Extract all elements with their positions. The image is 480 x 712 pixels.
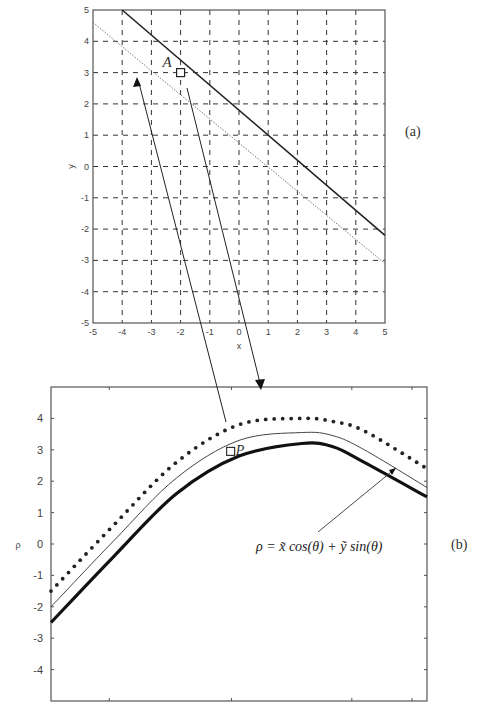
curve-dot [67, 571, 71, 575]
curve-dot [137, 497, 141, 501]
y-tick-label: 4 [37, 412, 43, 424]
curve-dot [180, 456, 184, 460]
curve-dot [155, 478, 159, 482]
y-tick-label: 1 [84, 130, 89, 140]
arrow-b-to-a [139, 83, 226, 422]
curve-dot [114, 521, 118, 525]
y-tick-label: 0 [37, 538, 43, 550]
x-tick-label: 3 [324, 327, 329, 337]
y-tick-label: 5 [84, 5, 89, 15]
curve-dot [255, 419, 259, 423]
line-dotted [93, 23, 385, 264]
y-tick-label: 2 [37, 475, 43, 487]
curve-dot [247, 420, 251, 424]
curve-dot [125, 509, 129, 513]
point-a-label: A [162, 54, 173, 70]
point-a-marker [177, 69, 185, 77]
curve-dot [161, 472, 165, 476]
y-tick-label: 0 [84, 162, 89, 172]
x-tick-label: -2 [177, 327, 185, 337]
curve-dot [119, 515, 123, 519]
curve-dot [187, 451, 191, 455]
curve-dot [386, 442, 390, 446]
curve-dot [131, 503, 135, 507]
curve-dot [55, 583, 59, 587]
curve-dot [315, 417, 319, 421]
curve-dot [289, 417, 293, 421]
y-tick-label: -1 [33, 569, 43, 581]
figure-canvas: -5-4-3-2-1012345543210-1-2-3-4-5xyA43210… [0, 0, 480, 712]
curve-dot [332, 420, 336, 424]
x-tick-label: 0 [236, 327, 241, 337]
y-tick-label: -1 [81, 193, 89, 203]
x-tick-label: 5 [382, 327, 387, 337]
y-tick-label: -2 [33, 601, 43, 613]
curve-dot [356, 426, 360, 430]
curve-thick [51, 443, 427, 623]
curve-dot [173, 461, 177, 465]
curve-dot [201, 441, 205, 445]
arrow-a-to-b [187, 88, 260, 383]
y-tick-label: -3 [81, 255, 89, 265]
curve-dot [194, 446, 198, 450]
curve-dot [143, 491, 147, 495]
curve-dot [167, 467, 171, 471]
curve-dot [348, 423, 352, 427]
panel-label-a: (a) [405, 124, 421, 140]
curve-dot [323, 418, 327, 422]
curve-dot [223, 429, 227, 433]
curve-dot [231, 425, 235, 429]
y-axis-label: y [66, 164, 76, 169]
curve-dot [78, 558, 82, 562]
curve-dot [379, 438, 383, 442]
x-tick-label: -5 [89, 327, 97, 337]
line-solid [122, 10, 385, 235]
y-axis-label: ρ [15, 540, 20, 550]
curve-dot [371, 434, 375, 438]
y-tick-label: 3 [37, 444, 43, 456]
x-tick-label: 2 [295, 327, 300, 337]
curve-dot [264, 418, 268, 422]
curve-dot [340, 421, 344, 425]
x-tick-label: 4 [353, 327, 358, 337]
curve-dot [393, 447, 397, 451]
curve-dot [149, 484, 153, 488]
curve-dot [102, 534, 106, 538]
x-tick-label: 1 [266, 327, 271, 337]
y-tick-label: 1 [37, 507, 43, 519]
curve-dot [364, 430, 368, 434]
x-axis-label: x [237, 341, 242, 351]
y-tick-label: -3 [33, 632, 43, 644]
curve-dot [239, 422, 243, 426]
curve-dot [96, 540, 100, 544]
chart-a: -5-4-3-2-1012345543210-1-2-3-4-5xyA [66, 5, 388, 351]
formula-pointer-line [318, 468, 396, 532]
y-tick-label: 3 [84, 68, 89, 78]
point-p-label: P [235, 443, 245, 458]
y-tick-label: 2 [84, 99, 89, 109]
x-tick-label: -4 [118, 327, 126, 337]
curve-thin [51, 432, 427, 607]
curve-dot [215, 432, 219, 436]
curve-dot [281, 417, 285, 421]
hough-formula: ρ = x̃ cos(θ) + ỹ sin(θ) [256, 539, 382, 555]
arrowhead-down-icon [255, 379, 265, 390]
curve-dot [272, 417, 276, 421]
formula-pointer-arrowhead [389, 468, 396, 475]
y-tick-label: -4 [33, 664, 43, 676]
arrowhead-up-icon [133, 77, 141, 87]
curve-dot [400, 451, 404, 455]
curve-dot [415, 460, 419, 464]
curve-dot [49, 589, 53, 593]
y-tick-label: 4 [84, 36, 89, 46]
curve-dot [90, 546, 94, 550]
panel-label-b: (b) [451, 537, 467, 553]
connector-arrows [133, 77, 265, 422]
y-tick-label: -4 [81, 287, 89, 297]
curve-dot [72, 564, 76, 568]
x-tick-label: -3 [147, 327, 155, 337]
curve-dot [84, 552, 88, 556]
curve-dot [61, 577, 65, 581]
y-tick-label: -5 [81, 318, 89, 328]
curve-dot [422, 465, 426, 469]
